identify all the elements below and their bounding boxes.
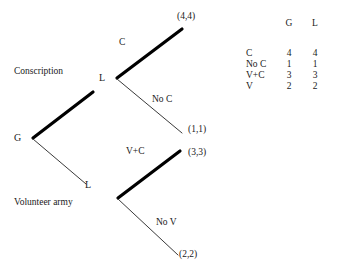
payoff-row-v-l: 2 (302, 81, 328, 92)
branch-c (117, 29, 182, 78)
branch-conscription (33, 92, 93, 138)
payoff-row-c-g: 4 (276, 48, 302, 59)
payoff-row-name-v: V (246, 81, 276, 92)
payoff-row-v-g: 2 (276, 81, 302, 92)
payoff-table-col-g: G (276, 18, 302, 48)
payoff-table: G L C 4 4 No C 1 1 V+C 3 3 V 2 (246, 18, 328, 92)
branch-v-plus-c (118, 151, 180, 198)
game-tree-figure: G L L Conscription Volunteer army C No C… (0, 0, 348, 277)
action-label-no-c: No C (152, 95, 172, 105)
payoff-label-1-1: (1,1) (188, 125, 206, 135)
action-label-no-v: No V (156, 218, 177, 228)
action-label-c: C (119, 38, 125, 48)
node-label-upper-l: L (99, 73, 105, 83)
action-label-v-plus-c: V+C (126, 147, 145, 157)
table-row: C 4 4 (246, 48, 328, 59)
node-label-root-g: G (14, 133, 21, 143)
branch-volunteer-army (33, 139, 86, 184)
table-row: V+C 3 3 (246, 70, 328, 81)
payoff-row-c-l: 4 (302, 48, 328, 59)
payoff-row-v-plus-c-g: 3 (276, 70, 302, 81)
table-row: No C 1 1 (246, 59, 328, 70)
table-row: V 2 2 (246, 81, 328, 92)
payoff-label-2-2: (2,2) (179, 250, 197, 260)
payoff-row-no-c-g: 1 (276, 59, 302, 70)
payoff-row-name-c: C (246, 48, 276, 59)
payoff-row-name-v-plus-c: V+C (246, 70, 276, 81)
node-label-lower-l: L (85, 180, 91, 190)
context-label-volunteer-army: Volunteer army (14, 198, 73, 208)
payoff-row-v-plus-c-l: 3 (302, 70, 328, 81)
payoff-table-col-l: L (302, 18, 328, 48)
payoff-table-header-row: G L (246, 18, 328, 48)
payoff-label-3-3: (3,3) (188, 148, 206, 158)
payoff-table-corner (246, 18, 276, 48)
payoff-row-no-c-l: 1 (302, 59, 328, 70)
branch-no-c (117, 79, 182, 133)
payoff-label-4-4: (4,4) (177, 12, 195, 22)
payoff-row-name-no-c: No C (246, 59, 276, 70)
context-label-conscription: Conscription (14, 67, 63, 77)
